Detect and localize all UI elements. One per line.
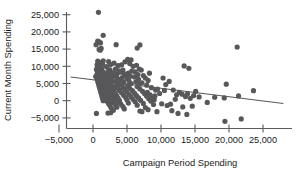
data-point (145, 78, 150, 83)
data-point (224, 82, 229, 87)
y-tick-label: −5,000 (31, 113, 59, 123)
data-point (251, 88, 256, 93)
data-point (139, 109, 144, 114)
data-point (135, 45, 140, 50)
plot-area: −5,00005,00010,00015,00020,00025,000 −5,… (0, 0, 297, 174)
data-point (175, 111, 180, 116)
y-tick-label: 20,000 (31, 27, 59, 37)
y-tick-label: 5,000 (36, 79, 59, 89)
x-tick-label: 5,000 (116, 135, 139, 145)
data-point (94, 111, 99, 116)
data-point (131, 64, 136, 69)
data-point (167, 79, 172, 84)
x-tick-label: 20,000 (215, 135, 243, 145)
data-point (222, 119, 227, 124)
x-tick-label: 25,000 (249, 135, 277, 145)
data-point (152, 93, 157, 98)
data-point (184, 112, 189, 117)
data-point (98, 40, 103, 45)
data-point (122, 106, 127, 111)
data-point (169, 108, 174, 113)
data-point (159, 101, 164, 106)
y-tick-label: 0 (54, 96, 59, 106)
data-point (108, 110, 113, 115)
data-point (126, 101, 131, 106)
data-point (160, 75, 165, 80)
data-point (93, 42, 98, 47)
data-point (196, 94, 201, 99)
data-point (151, 102, 156, 107)
data-point (145, 107, 150, 112)
data-point (157, 91, 162, 96)
x-tick-label: 10,000 (147, 135, 175, 145)
data-point (135, 103, 140, 108)
data-point (205, 100, 210, 105)
data-point (139, 67, 144, 72)
y-tick-label-group: −5,00005,00010,00015,00020,00025,000 (31, 10, 59, 123)
x-axis-title: Campaign Period Spending (123, 157, 238, 168)
data-point-group (93, 10, 256, 124)
x-tick-label-group: −5,00005,00010,00015,00020,00025,000 (45, 135, 277, 145)
y-tick-label: 10,000 (31, 62, 59, 72)
data-point (186, 66, 191, 71)
x-tick-label: 0 (90, 135, 95, 145)
data-point (190, 104, 195, 109)
data-point (239, 116, 244, 121)
data-point (173, 97, 178, 102)
data-point (180, 104, 185, 109)
data-point (154, 109, 159, 114)
y-axis-title: Current Month Spending (2, 19, 13, 121)
data-point (101, 33, 106, 38)
data-point (235, 44, 240, 49)
data-point (147, 71, 152, 76)
data-point (114, 42, 119, 47)
data-point (165, 103, 170, 108)
y-tick-label: 15,000 (31, 44, 59, 54)
y-tick-label: 25,000 (31, 10, 59, 20)
data-point (98, 48, 103, 53)
x-tick-label: −5,000 (45, 135, 73, 145)
scatter-chart: −5,00005,00010,00015,00020,00025,000 −5,… (0, 0, 297, 174)
data-point (96, 10, 101, 15)
x-tick-label: 15,000 (181, 135, 209, 145)
data-point (182, 63, 187, 68)
